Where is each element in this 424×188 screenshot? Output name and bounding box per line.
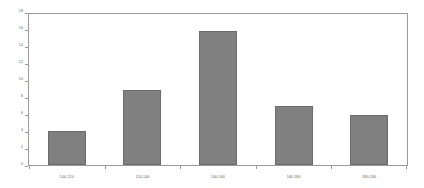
y-axis-tick-label: 2 [21, 145, 23, 149]
bar [199, 31, 237, 165]
y-axis-tick-label: 6 [21, 111, 23, 115]
bar-slot [180, 14, 256, 165]
x-axis-tick: 140-160 [180, 166, 256, 188]
x-axis-tick-mark [180, 166, 181, 169]
bar [350, 115, 388, 165]
x-axis-tick-mark [331, 166, 332, 169]
x-axis-tick-label: 180-200 [362, 175, 376, 179]
bar [275, 106, 313, 165]
x-axis-tick-label: 160-180 [287, 175, 301, 179]
x-axis-tick-label: 120-140 [135, 175, 149, 179]
x-axis-tick-mark [256, 166, 257, 169]
bar-slot [105, 14, 181, 165]
y-axis-tick-mark [25, 166, 28, 167]
bars-layer [29, 14, 407, 165]
x-axis: 100-120120-140140-160160-180180-200 [29, 166, 407, 188]
x-axis-tick-mark [406, 166, 407, 169]
bar-slot [29, 14, 105, 165]
y-axis-tick-label: 10 [19, 77, 23, 81]
y-axis-tick-label: 14 [19, 43, 23, 47]
x-axis-tick-mark [29, 166, 30, 169]
x-axis-tick-mark [105, 166, 106, 169]
x-axis-tick: 100-120 [29, 166, 105, 188]
y-axis-tick-label: 16 [19, 26, 23, 30]
x-axis-tick-label: 100-120 [60, 175, 74, 179]
x-axis-tick: 180-200 [331, 166, 407, 188]
bar [123, 90, 161, 166]
y-axis-tick-label: 12 [19, 60, 23, 64]
bar [48, 131, 86, 165]
y-axis: 024681012141618 [0, 13, 28, 166]
bar-slot [256, 14, 332, 165]
y-axis-tick-label: 0 [21, 162, 23, 166]
bar-chart: 024681012141618 100-120120-140140-160160… [0, 0, 424, 188]
y-axis-tick-label: 8 [21, 94, 23, 98]
y-axis-tick-label: 4 [21, 128, 23, 132]
y-axis-tick-label: 18 [19, 9, 23, 13]
bar-slot [331, 14, 407, 165]
x-axis-tick-label: 140-160 [211, 175, 225, 179]
x-axis-tick: 160-180 [256, 166, 332, 188]
x-axis-tick: 120-140 [105, 166, 181, 188]
